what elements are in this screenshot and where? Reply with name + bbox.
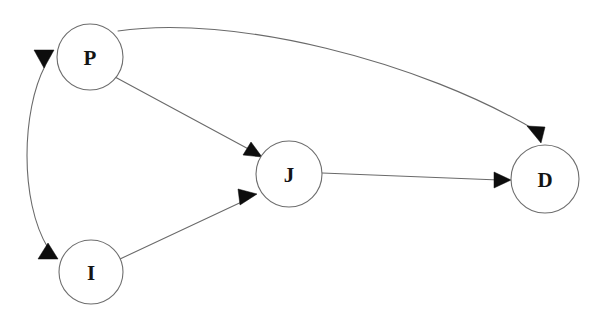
node-d-label: D: [537, 168, 552, 192]
arrowhead-into-p: [34, 50, 54, 68]
node-j[interactable]: J: [256, 141, 322, 207]
edge-p-to-j-path: [115, 77, 254, 152]
edge-j-to-d-path: [322, 173, 499, 180]
node-i-label: I: [87, 261, 95, 285]
edge-p-to-d-path: [118, 27, 540, 133]
node-i[interactable]: I: [59, 240, 123, 304]
graph-svg: P J D I: [0, 0, 595, 329]
arrowhead-into-d-top: [527, 126, 545, 143]
edge-i-to-j: [120, 189, 257, 259]
diagram-canvas: P J D I: [0, 0, 595, 329]
edge-i-to-j-path: [120, 199, 248, 259]
node-p-label: P: [84, 46, 97, 70]
arrowhead-into-j-lower: [238, 189, 257, 205]
edge-p-and-i-path: [27, 66, 48, 248]
edge-p-to-d: [118, 27, 545, 143]
edge-p-to-j: [115, 77, 262, 157]
arrowhead-into-i: [38, 243, 58, 259]
edge-p-and-i-bidirectional: [27, 50, 58, 259]
arrowhead-into-d-left: [494, 172, 511, 188]
node-j-label: J: [284, 163, 295, 187]
edge-j-to-d: [322, 172, 511, 188]
arrowhead-into-j-upper: [243, 142, 262, 157]
node-d[interactable]: D: [511, 145, 579, 213]
node-p[interactable]: P: [57, 24, 123, 90]
